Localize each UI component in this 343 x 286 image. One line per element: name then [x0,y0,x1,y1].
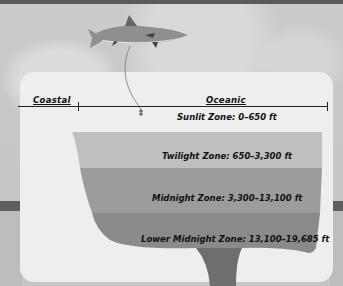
depth-marker-icon [139,109,143,116]
midnight-zone-band [80,168,322,213]
coastal-label: Coastal [33,95,71,105]
midnight-zone-label: Midnight Zone: 3,300–13,100 ft [152,193,302,203]
lower-midnight-zone-band [92,213,320,253]
lower-midnight-zone-label: Lower Midnight Zone: 13,100–19,685 ft [141,234,329,244]
twilight-zone-label: Twilight Zone: 650–3,300 ft [162,151,292,161]
region-axis-line [18,106,328,107]
shark-depth-line [125,46,141,109]
oceanic-end-tick [327,102,328,111]
twilight-zone-band [72,132,322,168]
oceanic-label: Oceanic [206,95,246,105]
shark-icon [88,15,188,48]
sunlit-zone-label: Sunlit Zone: 0–650 ft [177,112,277,122]
coastal-boundary-tick [78,102,79,111]
trench [196,248,242,286]
